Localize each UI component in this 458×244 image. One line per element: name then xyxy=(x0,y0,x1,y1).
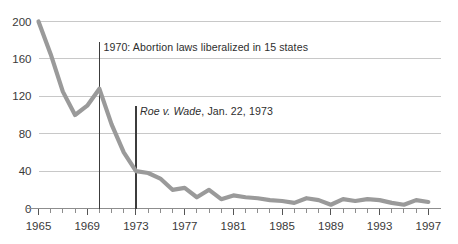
y-axis-tick-label: 120 xyxy=(12,90,31,102)
y-axis-tick-label: 160 xyxy=(12,53,31,65)
annotation-roe-v-wade-case: Roe v. Wade xyxy=(140,105,201,117)
annotation-roe-v-wade: Roe v. Wade, Jan. 22, 1973 xyxy=(140,105,273,117)
y-axis-tick-label: 200 xyxy=(12,16,31,28)
annotation-law-liberalization-text: 1970: Abortion laws liberalized in 15 st… xyxy=(103,41,308,53)
x-axis-tick-label: 1989 xyxy=(318,220,344,232)
y-axis-labels: 04080120160200 xyxy=(12,16,31,215)
event-marker-lines xyxy=(99,42,136,208)
x-axis-tick-label: 1973 xyxy=(123,220,149,232)
y-axis-tick-label: 40 xyxy=(19,165,32,177)
line-chart: 04080120160200 1965196919731977198119851… xyxy=(0,0,458,244)
x-axis-tick-label: 1985 xyxy=(269,220,295,232)
x-axis xyxy=(27,209,441,215)
x-axis-tick-label: 1965 xyxy=(26,220,52,232)
annotation-law-liberalization: 1970: Abortion laws liberalized in 15 st… xyxy=(103,41,308,53)
x-axis-tick-label: 1977 xyxy=(172,220,198,232)
x-axis-labels: 196519691973197719811985198919931997 xyxy=(26,220,441,232)
annotation-roe-v-wade-date: , Jan. 22, 1973 xyxy=(201,105,273,117)
x-axis-tick-label: 1981 xyxy=(221,220,247,232)
chart-container: 04080120160200 1965196919731977198119851… xyxy=(0,0,458,244)
x-axis-tick-label: 1993 xyxy=(367,220,393,232)
x-axis-tick-label: 1969 xyxy=(74,220,100,232)
x-axis-tick-label: 1997 xyxy=(416,220,442,232)
y-axis-tick-label: 80 xyxy=(19,128,32,140)
